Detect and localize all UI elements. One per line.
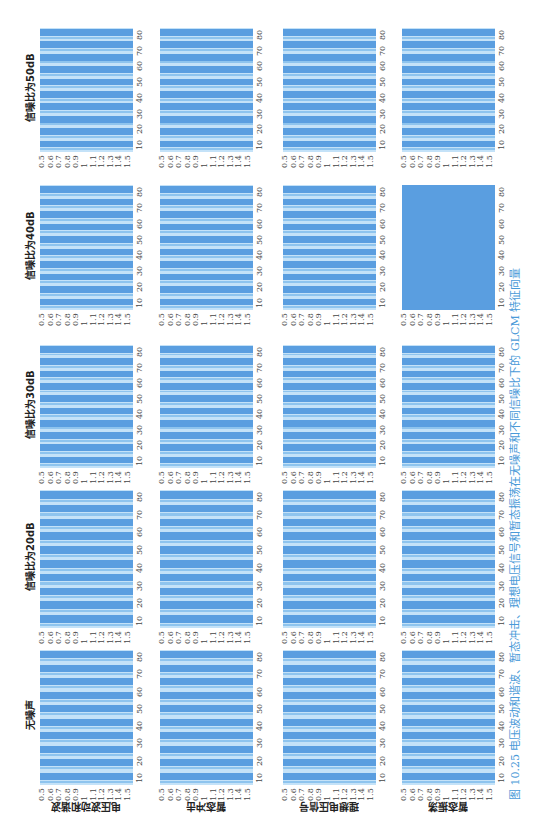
x-tick-label: 1.5 [367,631,375,644]
y-tick-label: 30 [379,108,387,118]
heatmap-band [283,41,376,48]
x-tick-label: 1.2 [98,471,106,484]
heatmap-band [283,286,376,293]
heatmap-band [40,269,133,271]
heatmap-band [283,513,376,515]
heatmap-band [283,713,376,715]
x-tick-label: 0.7 [417,471,425,484]
heatmap-band [160,781,253,783]
x-tick-label: 0.5 [158,788,166,801]
y-tick-label: 80 [379,187,387,197]
y-tick-label: 80 [256,347,264,357]
heatmap-band [402,601,495,609]
heatmap-band [283,727,376,729]
heatmap-band [283,111,376,113]
x-tick-label: 1.2 [341,313,349,326]
heatmap-band [160,596,253,598]
heatmap-band [160,211,253,218]
heatmap-band [160,206,253,208]
y-tick-label: 80 [136,492,144,502]
y-tick-label: 30 [136,738,144,748]
heatmap-band [160,713,253,715]
y-tick-label: 80 [379,652,387,662]
heatmap-band [402,527,495,529]
heatmap-band [283,601,376,609]
heatmap-band [402,371,495,378]
heatmap-band [402,91,495,98]
heatmap-band [40,440,133,442]
y-tick-label: 10 [256,616,264,626]
x-tick-label: 1 [201,639,209,644]
heatmap-band [40,391,133,393]
heatmap-band [283,274,376,281]
heatmap-band [160,440,253,442]
heatmap-band [40,249,133,256]
x-tick-label: 0.7 [175,313,183,326]
heatmap-band [40,103,133,110]
heatmap-band [160,457,253,464]
heatmap-band [160,705,253,712]
heatmap-band [283,194,376,196]
x-tick-label: 0.5 [38,471,46,484]
heatmap-band [160,91,253,98]
heatmap-band [160,673,253,675]
heatmap-band [160,615,253,623]
heatmap-band [40,686,133,688]
glcm-panel [160,28,253,152]
x-tick-label: 1.2 [218,471,226,484]
y-tick-label: 50 [379,704,387,714]
heatmap-band [283,588,376,596]
heatmap-band [402,256,495,258]
glcm-panel [160,345,253,468]
heatmap-band [402,420,495,427]
heatmap-band [283,403,376,405]
glcm-panel [283,490,376,628]
glcm-panel [40,650,133,785]
y-tick-label: 70 [498,510,506,520]
heatmap-band [160,541,253,543]
y-tick-label: 30 [498,266,506,276]
heatmap-band [283,560,376,568]
y-tick-label: 30 [379,738,387,748]
x-tick-label: 0.7 [417,313,425,326]
x-tick-label: 1.5 [367,788,375,801]
y-tick-label: 50 [256,234,264,244]
y-tick-label: 10 [256,298,264,308]
y-tick-label: 10 [379,140,387,150]
y-tick-label: 10 [136,456,144,466]
heatmap-band [160,546,253,554]
y-tick-label: 20 [379,124,387,134]
glcm-panel [402,185,495,310]
y-tick-label: 60 [256,219,264,229]
x-tick-label: 1 [443,321,451,326]
x-tick-label: 0.7 [55,631,63,644]
x-tick-label: 0.5 [281,313,289,326]
heatmap-band [40,294,133,296]
y-tick-label: 70 [379,362,387,372]
heatmap-band [402,727,495,729]
heatmap-band [40,713,133,715]
x-tick-label: 0.5 [400,788,408,801]
heatmap-band [40,358,133,365]
y-tick-label: 50 [136,394,144,404]
heatmap-band [402,588,495,596]
heatmap-band [160,588,253,596]
y-tick-label: 60 [136,61,144,71]
heatmap-band [40,527,133,529]
heatmap-band [160,261,253,268]
glcm-panel [160,650,253,785]
x-tick-label: 1.5 [486,631,494,644]
heatmap-band [160,532,253,540]
heatmap-band [283,532,376,540]
x-tick-label: 1 [443,163,451,168]
y-tick-label: 80 [498,30,506,40]
y-tick-label: 20 [379,598,387,608]
y-tick-label: 70 [379,46,387,56]
heatmap-band [283,54,376,61]
x-tick-label: 1.2 [460,155,468,168]
heatmap-band [283,541,376,543]
x-tick-label: 1.5 [486,788,494,801]
x-tick-label: 0.5 [158,631,166,644]
heatmap-band [160,66,253,73]
heatmap-band [40,678,133,685]
